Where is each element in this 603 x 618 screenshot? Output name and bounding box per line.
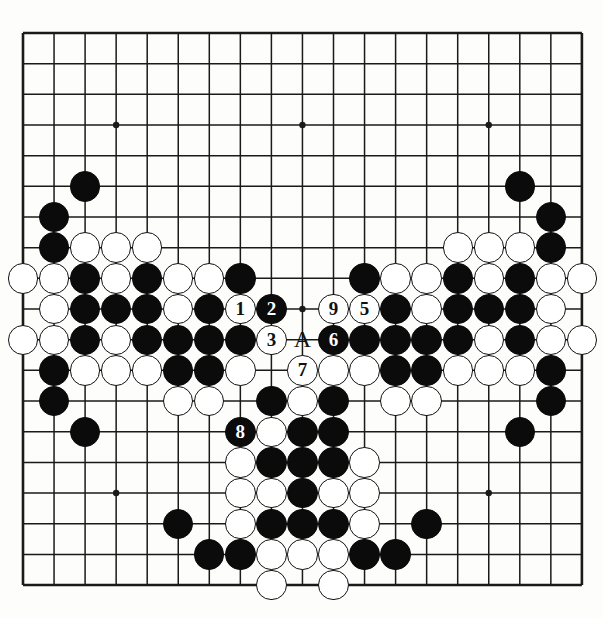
white-stone[interactable] xyxy=(256,478,286,508)
white-stone[interactable] xyxy=(287,386,317,416)
white-stone[interactable] xyxy=(380,263,410,293)
white-stone[interactable] xyxy=(256,539,286,569)
black-stone[interactable] xyxy=(132,263,162,293)
black-stone[interactable] xyxy=(505,417,535,447)
white-stone[interactable] xyxy=(256,417,286,447)
black-stone[interactable] xyxy=(39,232,69,262)
white-stone[interactable] xyxy=(101,232,131,262)
move-stone-1[interactable]: 1 xyxy=(225,294,255,324)
black-stone[interactable] xyxy=(70,263,100,293)
white-stone[interactable] xyxy=(225,509,255,539)
white-stone[interactable] xyxy=(349,355,379,385)
black-stone[interactable] xyxy=(194,539,224,569)
white-stone[interactable] xyxy=(101,325,131,355)
black-stone[interactable] xyxy=(380,325,410,355)
white-stone[interactable] xyxy=(101,263,131,293)
black-stone[interactable] xyxy=(411,509,441,539)
white-stone[interactable] xyxy=(474,325,504,355)
white-stone[interactable] xyxy=(474,232,504,262)
black-stone[interactable] xyxy=(443,263,473,293)
white-stone[interactable] xyxy=(505,355,535,385)
white-stone[interactable] xyxy=(411,294,441,324)
black-stone[interactable] xyxy=(256,509,286,539)
white-stone[interactable] xyxy=(567,263,597,293)
white-stone[interactable] xyxy=(194,263,224,293)
move-stone-9[interactable]: 9 xyxy=(318,294,348,324)
black-stone[interactable] xyxy=(380,294,410,324)
white-stone[interactable] xyxy=(256,570,286,600)
white-stone[interactable] xyxy=(132,232,162,262)
white-stone[interactable] xyxy=(536,294,566,324)
white-stone[interactable] xyxy=(349,447,379,477)
white-stone[interactable] xyxy=(318,355,348,385)
black-stone[interactable] xyxy=(70,171,100,201)
white-stone[interactable] xyxy=(8,263,38,293)
white-stone[interactable] xyxy=(567,325,597,355)
black-stone[interactable] xyxy=(70,325,100,355)
black-stone[interactable] xyxy=(39,355,69,385)
black-stone[interactable] xyxy=(318,417,348,447)
white-stone[interactable] xyxy=(132,355,162,385)
black-stone[interactable] xyxy=(505,263,535,293)
black-stone[interactable] xyxy=(411,355,441,385)
black-stone[interactable] xyxy=(132,325,162,355)
white-stone[interactable] xyxy=(380,386,410,416)
white-stone[interactable] xyxy=(474,355,504,385)
black-stone[interactable] xyxy=(411,325,441,355)
white-stone[interactable] xyxy=(318,570,348,600)
black-stone[interactable] xyxy=(536,386,566,416)
black-stone[interactable] xyxy=(318,447,348,477)
white-stone[interactable] xyxy=(225,447,255,477)
white-stone[interactable] xyxy=(318,478,348,508)
black-stone[interactable] xyxy=(474,294,504,324)
white-stone[interactable] xyxy=(411,263,441,293)
black-stone[interactable] xyxy=(380,355,410,385)
move-stone-3[interactable]: 3 xyxy=(256,325,286,355)
black-stone[interactable] xyxy=(70,417,100,447)
black-stone[interactable] xyxy=(287,417,317,447)
black-stone[interactable] xyxy=(349,539,379,569)
black-stone[interactable] xyxy=(225,325,255,355)
white-stone[interactable] xyxy=(349,478,379,508)
black-stone[interactable] xyxy=(443,325,473,355)
white-stone[interactable] xyxy=(163,263,193,293)
black-stone[interactable] xyxy=(505,325,535,355)
black-stone[interactable] xyxy=(287,447,317,477)
white-stone[interactable] xyxy=(225,355,255,385)
black-stone[interactable] xyxy=(536,202,566,232)
white-stone[interactable] xyxy=(349,509,379,539)
white-stone[interactable] xyxy=(225,478,255,508)
white-stone[interactable] xyxy=(287,539,317,569)
white-stone[interactable] xyxy=(474,263,504,293)
white-stone[interactable] xyxy=(39,263,69,293)
black-stone[interactable] xyxy=(349,263,379,293)
move-stone-7[interactable]: 7 xyxy=(287,355,317,385)
black-stone[interactable] xyxy=(163,325,193,355)
move-stone-2[interactable]: 2 xyxy=(256,294,286,324)
black-stone[interactable] xyxy=(287,478,317,508)
black-stone[interactable] xyxy=(318,509,348,539)
black-stone[interactable] xyxy=(163,355,193,385)
white-stone[interactable] xyxy=(70,355,100,385)
white-stone[interactable] xyxy=(536,325,566,355)
black-stone[interactable] xyxy=(318,386,348,416)
black-stone[interactable] xyxy=(256,447,286,477)
black-stone[interactable] xyxy=(287,509,317,539)
move-stone-8[interactable]: 8 xyxy=(225,417,255,447)
black-stone[interactable] xyxy=(194,355,224,385)
white-stone[interactable] xyxy=(318,539,348,569)
white-stone[interactable] xyxy=(39,325,69,355)
black-stone[interactable] xyxy=(225,539,255,569)
white-stone[interactable] xyxy=(505,232,535,262)
white-stone[interactable] xyxy=(443,355,473,385)
black-stone[interactable] xyxy=(380,539,410,569)
black-stone[interactable] xyxy=(505,171,535,201)
white-stone[interactable] xyxy=(411,386,441,416)
white-stone[interactable] xyxy=(70,232,100,262)
black-stone[interactable] xyxy=(536,355,566,385)
white-stone[interactable] xyxy=(443,232,473,262)
black-stone[interactable] xyxy=(536,232,566,262)
black-stone[interactable] xyxy=(225,263,255,293)
black-stone[interactable] xyxy=(256,386,286,416)
black-stone[interactable] xyxy=(349,325,379,355)
